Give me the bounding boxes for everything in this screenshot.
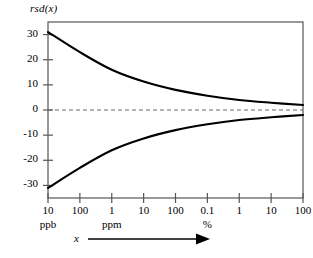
y-tick-label: 0 [8, 102, 38, 114]
x-axis-name: x [74, 232, 79, 244]
x-unit-label: ppm [95, 218, 129, 230]
x-tick-label: 10 [127, 204, 161, 216]
x-axis-arrow [88, 234, 210, 245]
x-tick-label: 0.1 [190, 204, 224, 216]
y-tick-label: 30 [8, 27, 38, 39]
x-unit-label: ppb [31, 218, 65, 230]
y-tick-label: 10 [8, 77, 38, 89]
chart-figure: rsd(x) 3020100-10-20-30 101001101000.111… [0, 0, 313, 258]
x-tick-label: 1 [222, 204, 256, 216]
x-tick-label: 100 [159, 204, 193, 216]
series-lower-curve [48, 115, 303, 188]
y-tick-label: 20 [8, 52, 38, 64]
x-tick-label: 1 [95, 204, 129, 216]
y-tick-label: -20 [8, 152, 38, 164]
series-upper-curve [48, 32, 303, 105]
y-tick-label: -10 [8, 127, 38, 139]
x-tick-label: 100 [286, 204, 313, 216]
x-tick-label: 10 [254, 204, 288, 216]
y-tick-label: -30 [8, 177, 38, 189]
x-tick-label: 10 [31, 204, 65, 216]
x-tick-label: 100 [63, 204, 97, 216]
x-unit-label: % [190, 218, 224, 230]
